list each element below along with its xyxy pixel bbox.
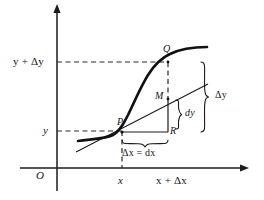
brace-dy — [176, 100, 182, 129]
x-axis-label-x: x — [118, 175, 123, 186]
annotation-delta-y: Δy — [215, 90, 227, 100]
x-axis-arrow-icon — [240, 164, 249, 171]
origin-label: O — [36, 170, 44, 181]
point-marker-Q — [167, 61, 170, 64]
brace-delta-x — [122, 140, 168, 147]
y-axis-label-y: y — [43, 125, 48, 136]
differential-diagram-figure: y + Δy y O x x + Δx P Q M R Δy dy Δx = d… — [0, 0, 264, 200]
annotation-delta-x-equals-dx: Δx = dx — [122, 148, 155, 158]
x-axis-label-x-plus-delta-x: x + Δx — [156, 175, 187, 186]
point-label-Q: Q — [163, 44, 170, 54]
brace-delta-y — [201, 62, 209, 132]
point-label-P: P — [117, 117, 123, 127]
y-axis-label-y-plus-delta-y: y + Δy — [13, 56, 44, 67]
point-marker-P — [120, 130, 123, 133]
point-label-R: R — [170, 126, 176, 136]
y-axis-arrow-icon — [53, 4, 60, 13]
point-marker-M — [167, 98, 170, 101]
annotation-dy: dy — [185, 108, 195, 118]
point-label-M: M — [155, 91, 164, 101]
tangent-line — [76, 84, 208, 152]
